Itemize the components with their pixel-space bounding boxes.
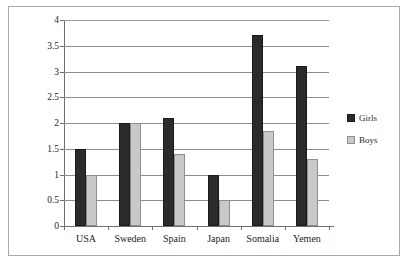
y-axis-tick xyxy=(60,175,64,176)
legend-item-boys[interactable]: Boys xyxy=(347,135,407,145)
y-axis-tick-label: 1 xyxy=(54,170,59,180)
legend-item-girls[interactable]: Girls xyxy=(347,113,407,123)
bar-girls[interactable] xyxy=(208,175,219,227)
x-axis-line xyxy=(64,226,334,227)
bar-group xyxy=(163,20,185,226)
y-axis-tick-label: 3.5 xyxy=(47,41,59,51)
chart-frame: 00.511.522.533.54 USASwedenSpainJapanSom… xyxy=(8,6,400,256)
gridline xyxy=(64,149,329,150)
x-axis-tick xyxy=(64,226,65,230)
gridline xyxy=(64,200,329,201)
bar-girls[interactable] xyxy=(296,66,307,226)
x-axis-category-labels: USASwedenSpainJapanSomaliaYemen xyxy=(64,233,334,249)
x-axis-label-sweden: Sweden xyxy=(108,233,152,245)
gridline xyxy=(64,175,329,176)
bar-boys[interactable] xyxy=(263,131,274,226)
gridline xyxy=(64,123,329,124)
bar-boys[interactable] xyxy=(130,123,141,226)
clipped-header-text xyxy=(0,0,410,5)
x-axis-tick xyxy=(108,226,109,230)
chart-legend: GirlsBoys xyxy=(347,113,407,157)
gridline xyxy=(64,72,329,73)
plot-area xyxy=(64,20,329,226)
y-axis-tick xyxy=(60,123,64,124)
bar-boys[interactable] xyxy=(219,200,230,226)
bar-group xyxy=(252,20,274,226)
bar-group xyxy=(296,20,318,226)
y-axis-tick-label: 2.5 xyxy=(47,92,59,102)
y-axis-tick xyxy=(60,20,64,21)
y-axis-tick-label: 0 xyxy=(54,221,59,231)
y-axis-tick-label: 3 xyxy=(54,67,59,77)
bar-boys[interactable] xyxy=(174,154,185,226)
bar-group xyxy=(208,20,230,226)
x-axis-label-japan: Japan xyxy=(197,233,241,245)
bar-girls[interactable] xyxy=(163,118,174,226)
y-axis-tick xyxy=(60,97,64,98)
y-axis-tick-label: 4 xyxy=(54,15,59,25)
legend-label: Girls xyxy=(359,113,377,123)
y-axis-tick-labels: 00.511.522.533.54 xyxy=(33,20,59,226)
x-axis-tick xyxy=(329,226,330,230)
x-axis-label-spain: Spain xyxy=(152,233,196,245)
bar-girls[interactable] xyxy=(252,35,263,226)
y-axis-tick xyxy=(60,46,64,47)
x-axis-tick xyxy=(241,226,242,230)
gridline xyxy=(64,20,329,21)
filled-square-dark-icon xyxy=(347,114,355,122)
bar-girls[interactable] xyxy=(119,123,130,226)
y-axis-tick-label: 0.5 xyxy=(47,195,59,205)
gridline xyxy=(64,46,329,47)
x-axis-tick xyxy=(197,226,198,230)
filled-square-light-icon xyxy=(347,136,355,144)
gridline xyxy=(64,97,329,98)
y-axis-tick xyxy=(60,200,64,201)
y-axis-tick-label: 2 xyxy=(54,118,59,128)
x-axis-tick xyxy=(285,226,286,230)
bar-group xyxy=(75,20,97,226)
bar-group xyxy=(119,20,141,226)
bar-boys[interactable] xyxy=(307,159,318,226)
legend-label: Boys xyxy=(359,135,378,145)
bar-girls[interactable] xyxy=(75,149,86,226)
x-axis-tick xyxy=(152,226,153,230)
y-axis-tick-label: 1.5 xyxy=(47,144,59,154)
y-axis-tick xyxy=(60,149,64,150)
x-axis-label-usa: USA xyxy=(64,233,108,245)
x-axis-label-yemen: Yemen xyxy=(285,233,329,245)
x-axis-label-somalia: Somalia xyxy=(241,233,285,245)
y-axis-tick xyxy=(60,72,64,73)
bar-boys[interactable] xyxy=(86,175,97,227)
